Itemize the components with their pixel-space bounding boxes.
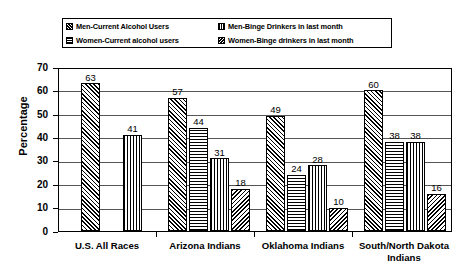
legend-swatch-horizontal-lines-icon <box>66 37 73 44</box>
legend-swatch-vertical-lines-icon <box>218 23 225 30</box>
x-tick-3 <box>352 232 353 237</box>
plot-area: 63 41 57 44 31 18 49 24 28 10 <box>58 68 452 232</box>
bar-dakota-women-binge[interactable] <box>427 194 446 232</box>
bar-oklahoma-women-current[interactable] <box>287 175 306 231</box>
y-tick-label-30: 30 <box>14 156 48 166</box>
bar-value-49: 49 <box>260 105 291 115</box>
bar-arizona-women-binge[interactable] <box>231 189 250 231</box>
legend-label-women-binge: Women-Binge drinkers in last month <box>228 37 353 44</box>
y-tick-label-10: 10 <box>14 203 48 213</box>
bar-dakota-women-current[interactable] <box>385 142 404 231</box>
bar-arizona-women-current[interactable] <box>189 128 208 231</box>
bar-arizona-men-binge[interactable] <box>210 158 229 231</box>
bar-group-oklahoma-indians: 49 24 28 10 <box>255 69 353 231</box>
y-tick-label-60: 60 <box>14 86 48 96</box>
chart-legend: Men-Current Alcohol Users Men-Binge Drin… <box>62 18 392 48</box>
y-tick-label-70: 70 <box>14 63 48 73</box>
legend-item-men-binge: Men-Binge Drinkers in last month <box>218 20 396 34</box>
bar-value-44: 44 <box>183 117 214 127</box>
bar-value-16: 16 <box>421 183 452 193</box>
bar-oklahoma-women-binge[interactable] <box>329 208 348 231</box>
bar-chart: Men-Current Alcohol Users Men-Binge Drin… <box>0 0 462 276</box>
y-tick-label-40: 40 <box>14 133 48 143</box>
x-tick-2 <box>254 232 255 237</box>
y-axis-title: Percentage <box>17 61 29 191</box>
bar-value-31: 31 <box>204 148 235 158</box>
y-tick-label-0: 0 <box>14 227 48 237</box>
bar-group-arizona-indians: 57 44 31 18 <box>157 69 255 231</box>
bar-us-all-races-men-current[interactable] <box>81 83 100 231</box>
y-tick-label-50: 50 <box>14 110 48 120</box>
bar-value-38-men: 38 <box>400 131 431 141</box>
bar-value-10: 10 <box>323 197 354 207</box>
legend-label-men-binge: Men-Binge Drinkers in last month <box>228 23 343 30</box>
legend-swatch-diagonal-down-hatch-icon <box>218 37 225 44</box>
legend-swatch-diagonal-up-hatch-icon <box>66 23 73 30</box>
bar-value-41: 41 <box>117 124 148 134</box>
legend-item-women-current: Women-Current alcohol users <box>66 34 218 48</box>
bar-group-south-north-dakota-indians: 60 38 38 16 <box>353 69 451 231</box>
x-label-south-north-dakota-indians: South/North Dakota Indians <box>352 240 456 263</box>
bar-value-60: 60 <box>358 80 389 90</box>
x-label-us-all-races: U.S. All Races <box>58 240 156 252</box>
x-label-arizona-indians: Arizona Indians <box>156 240 254 252</box>
legend-item-men-current: Men-Current Alcohol Users <box>66 20 218 34</box>
bar-oklahoma-men-current[interactable] <box>266 116 285 231</box>
legend-label-men-current: Men-Current Alcohol Users <box>76 23 169 30</box>
bar-value-28: 28 <box>302 155 333 165</box>
legend-label-women-current: Women-Current alcohol users <box>76 37 179 44</box>
bar-us-all-races-men-binge[interactable] <box>123 135 142 231</box>
bar-value-18: 18 <box>225 178 256 188</box>
x-label-oklahoma-indians: Oklahoma Indians <box>250 240 356 252</box>
legend-item-women-binge: Women-Binge drinkers in last month <box>218 34 396 48</box>
bar-value-57: 57 <box>162 87 193 97</box>
y-tick-label-20: 20 <box>14 180 48 190</box>
bar-value-63: 63 <box>75 73 106 83</box>
bar-dakota-men-current[interactable] <box>364 90 383 231</box>
y-tick-mark-0 <box>53 232 58 233</box>
x-tick-1 <box>156 232 157 237</box>
bar-group-us-all-races: 63 41 <box>59 69 157 231</box>
